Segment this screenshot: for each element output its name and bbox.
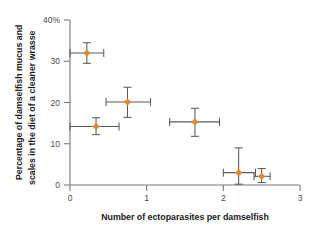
x-axis-title: Number of ectoparasites per damselfish	[101, 212, 269, 222]
data-point	[223, 148, 255, 184]
y-axis-title-line2: scales in the diet of a cleaner wrasse	[27, 30, 37, 185]
x-tick-label: 3	[298, 193, 303, 203]
data-point	[170, 108, 220, 136]
y-tick-label: 40%	[43, 15, 60, 25]
x-tick-label: 1	[144, 193, 149, 203]
axes-lines	[70, 20, 300, 185]
y-tick-label: 20	[51, 98, 61, 108]
data-point	[254, 169, 270, 183]
x-tick-label: 2	[221, 193, 226, 203]
y-axis-ticks: 010203040%	[43, 15, 70, 190]
data-point	[70, 43, 104, 64]
data-marker	[124, 98, 131, 105]
data-point	[70, 118, 119, 135]
data-marker	[258, 173, 265, 180]
data-marker	[92, 123, 99, 130]
x-tick-label: 0	[68, 193, 73, 203]
y-axis-title-line1: Percentage of damselfish mucus and	[14, 25, 24, 180]
data-marker	[235, 169, 242, 176]
y-tick-label: 30	[51, 56, 61, 66]
y-axis-title: Percentage of damselfish mucus and scale…	[14, 25, 37, 185]
y-tick-label: 0	[55, 180, 60, 190]
chart-figure: Percentage of damselfish mucus and scale…	[0, 0, 316, 228]
data-marker	[83, 49, 90, 56]
x-axis-ticks: 0123	[68, 185, 303, 203]
data-points-layer	[70, 43, 270, 184]
y-tick-label: 10	[51, 139, 61, 149]
data-marker	[191, 118, 198, 125]
scatter-plot: Percentage of damselfish mucus and scale…	[0, 0, 316, 228]
data-point	[106, 87, 150, 117]
